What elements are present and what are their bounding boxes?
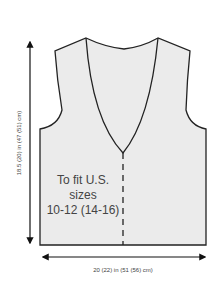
height-label: 18.5 (20) in (47 (51) cm) xyxy=(16,111,22,176)
fit-label-line-1: To fit U.S. xyxy=(57,173,109,187)
vest-schematic: To fit U.S. sizes 10-12 (14-16) 18.5 (20… xyxy=(0,0,223,304)
width-label: 20 (22) in (51 (56) cm) xyxy=(93,267,153,273)
fit-label-line-2: sizes xyxy=(69,188,96,202)
fit-label-line-3: 10-12 (14-16) xyxy=(47,203,120,217)
